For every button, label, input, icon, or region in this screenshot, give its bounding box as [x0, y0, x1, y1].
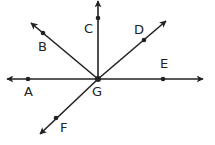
label-E: E — [160, 56, 168, 71]
point-D — [142, 38, 147, 43]
geometry-diagram: A B C D E F G — [0, 0, 215, 145]
label-D: D — [134, 22, 144, 37]
point-E — [161, 77, 166, 82]
point-F — [54, 116, 59, 121]
ray-GF — [40, 79, 98, 134]
point-C — [96, 16, 101, 21]
ray-GD — [98, 21, 166, 79]
point-A — [26, 77, 31, 82]
point-G — [95, 76, 101, 82]
label-G: G — [92, 84, 102, 99]
label-B: B — [38, 39, 47, 54]
label-C: C — [84, 21, 93, 36]
label-F: F — [60, 120, 67, 135]
label-A: A — [24, 84, 33, 99]
point-B — [41, 31, 46, 36]
